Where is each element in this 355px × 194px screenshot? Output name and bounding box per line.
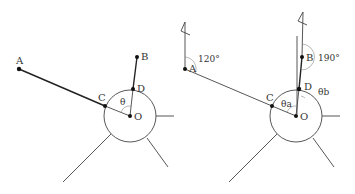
left-label-A: A — [15, 55, 24, 66]
left-point-A — [17, 67, 21, 71]
right-label-theta-b: θb — [318, 87, 329, 97]
right-label-B: B — [306, 52, 313, 63]
right-spoke-lower-left — [229, 134, 277, 182]
left-segment-AC — [19, 69, 105, 106]
right-angle-arc-b — [301, 96, 305, 98]
right-north-arrow-A-icon — [181, 22, 190, 35]
right-segment-DO — [296, 89, 299, 116]
right-point-D — [297, 87, 301, 91]
right-label-bearing-A: 120° — [198, 54, 220, 64]
right-segment-BD — [299, 57, 302, 89]
left-point-C — [103, 104, 107, 108]
right-label-A: A — [188, 63, 197, 74]
right-label-D: D — [304, 81, 312, 92]
left-label-C: C — [98, 92, 106, 103]
right-label-bearing-B: 190° — [318, 53, 340, 63]
left-label-O: O — [134, 111, 142, 122]
right-label-O: O — [300, 111, 308, 122]
left-figure: A B C D O θ — [15, 51, 174, 182]
left-label-B: B — [141, 51, 148, 62]
left-label-theta: θ — [120, 97, 125, 107]
left-label-D: D — [137, 83, 145, 94]
right-segment-AC — [185, 69, 272, 106]
right-point-C — [270, 104, 274, 108]
right-north-line-B — [302, 12, 303, 57]
right-point-A — [183, 67, 187, 71]
left-segment-CO — [105, 106, 130, 116]
left-segment-DO — [130, 89, 133, 116]
left-point-O — [128, 114, 132, 118]
right-label-C: C — [266, 92, 274, 103]
diagram-canvas: A B C D O θ — [0, 0, 355, 194]
right-figure: A B C D O θa θb 120° 190° — [181, 12, 340, 182]
right-spoke-lower-right — [313, 138, 334, 167]
left-spoke-lower-right — [147, 138, 168, 167]
left-point-D — [131, 87, 135, 91]
right-point-B — [300, 55, 304, 59]
right-label-theta-a: θa — [281, 99, 292, 109]
right-point-O — [294, 114, 298, 118]
left-spoke-lower-left — [63, 134, 111, 182]
left-point-B — [135, 55, 139, 59]
